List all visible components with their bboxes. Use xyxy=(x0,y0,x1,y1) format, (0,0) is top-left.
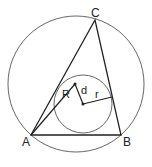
label-r: r xyxy=(95,88,99,100)
label-d: d xyxy=(81,84,87,96)
triangle-abc xyxy=(31,20,121,135)
label-R: R xyxy=(62,88,70,100)
label-A: A xyxy=(22,135,30,149)
label-B: B xyxy=(123,135,131,149)
triangle-circles-diagram: A B C R d r xyxy=(0,0,152,167)
label-C: C xyxy=(91,6,100,20)
incenter-point xyxy=(82,103,85,106)
circumcenter-point xyxy=(74,83,77,86)
